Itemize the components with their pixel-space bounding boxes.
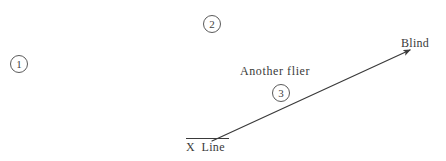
marker-circle-2[interactable]: 2 [203,15,221,33]
flight-path-arrow [0,0,446,161]
diagram-canvas: 1 2 3 Blind Another flier X Line [0,0,446,161]
marker-circle-3[interactable]: 3 [272,84,290,102]
marker-circle-1-label: 1 [16,59,22,70]
marker-circle-3-label: 3 [278,88,284,99]
baseline-label: X Line [186,141,225,153]
marker-circle-2-label: 2 [209,19,215,30]
another-flier-label: Another flier [240,65,310,77]
baseline-rule [186,138,229,139]
blind-label: Blind [401,37,429,49]
marker-circle-1[interactable]: 1 [10,55,28,73]
